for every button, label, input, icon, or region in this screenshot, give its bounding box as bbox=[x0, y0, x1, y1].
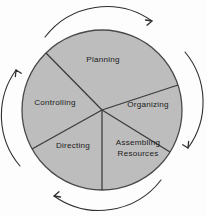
sector-label-organizing: Organizing bbox=[127, 100, 169, 109]
arrow-right-head-icon bbox=[183, 142, 189, 149]
arrow-left-head-icon bbox=[15, 70, 21, 77]
sector-label-controlling: Controlling bbox=[34, 98, 75, 107]
arrow-left bbox=[1, 70, 20, 166]
arrow-bottom-head-icon bbox=[54, 192, 61, 197]
sector-label-directing: Directing bbox=[56, 141, 90, 150]
management-cycle-diagram: Planning Organizing Assembling Resources… bbox=[0, 0, 207, 216]
sector-label-assembling-resources-line2: Resources bbox=[118, 149, 159, 158]
arrow-right bbox=[185, 52, 203, 148]
arrow-top-head-icon bbox=[146, 20, 153, 25]
sector-label-planning: Planning bbox=[86, 55, 120, 64]
sector-label-assembling-resources-line1: Assembling bbox=[116, 138, 160, 147]
cycle-diagram-svg: Planning Organizing Assembling Resources… bbox=[0, 0, 207, 216]
